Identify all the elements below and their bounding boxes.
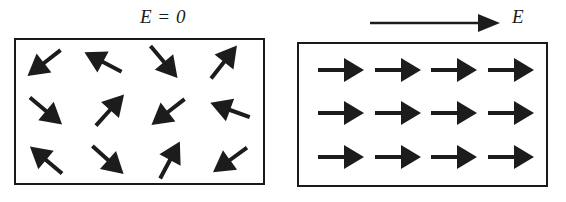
- applied-field-vector: [0, 0, 566, 202]
- field-arrow-icon: [370, 14, 500, 32]
- dipole-alignment-figure: E = 0 E: [0, 0, 566, 202]
